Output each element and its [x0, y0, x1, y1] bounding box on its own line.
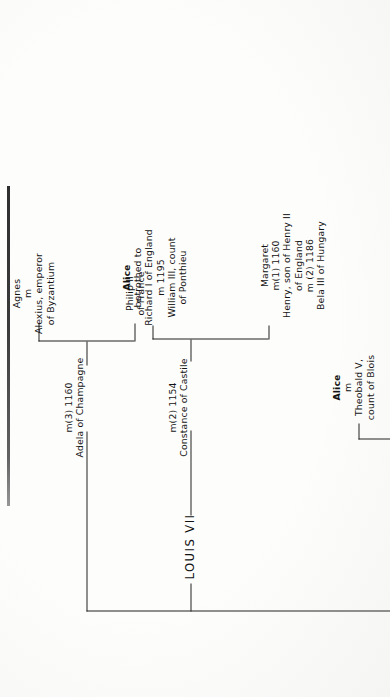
alice-ponthieu-line-4: m 1195 — [154, 229, 165, 326]
alice-ponthieu-line-6: of Ponthieu — [176, 229, 187, 326]
branch-to-marriage-3 — [86, 431, 87, 611]
marriage-3-children-bracket — [38, 340, 134, 341]
agnes-spouse-line-2: of Byzantium — [44, 252, 55, 333]
root-spine-left-stub — [190, 583, 191, 611]
margaret-line-6: Bela III of Hungary — [314, 213, 325, 318]
margaret-line-3: Henry, son of Henry II — [280, 213, 291, 318]
marriage-2-children-bracket — [152, 338, 268, 339]
marriage-3-label: m(3) 1160 Adela of Champagne — [62, 357, 85, 457]
alice-blois-spouse-line-2: count of Blois — [364, 354, 375, 419]
marriage-2-label: m(2) 1154 Constance of Castile — [166, 358, 189, 456]
agnes-spouse-line-1: Alexius, emperor — [32, 252, 43, 333]
alice-ponthieu-line-2: betrothed to — [131, 229, 142, 326]
node-alice-ponthieu: Alice betrothed to Richard I of England … — [120, 229, 187, 326]
alice-ponthieu-name: Alice — [120, 229, 131, 326]
margaret-line-4: of England — [292, 213, 303, 318]
agnes-name: Agnes — [10, 252, 21, 333]
alice-ponthieu-line-5: William III, count — [165, 229, 176, 326]
marriage-1-children-bracket — [358, 438, 390, 439]
alice-blois-spouse-line-1: Theobald V, — [352, 354, 363, 419]
alice-blois-name: Alice — [330, 354, 341, 419]
branch-to-alice-blois — [358, 423, 359, 439]
branch-to-alice-ponthieu — [152, 325, 153, 339]
alice-ponthieu-line-3: Richard I of England — [142, 229, 153, 326]
root-node-label: LOUIS VII — [182, 513, 196, 579]
margaret-name: Margaret — [258, 213, 269, 318]
node-alice-blois: Alice m Theobald V, count of Blois — [330, 354, 375, 419]
margaret-line-2: m(1) 1160 — [269, 213, 280, 318]
marriage-2-connector — [190, 339, 191, 361]
marriages-riser — [86, 610, 390, 611]
margaret-line-5: m (2) 1186 — [303, 213, 314, 318]
marriage-3-spouse: Adela of Champagne — [73, 357, 84, 457]
marriage-3-order: m(3) 1160 — [62, 357, 73, 457]
marriage-3-connector — [86, 341, 87, 365]
branch-to-margaret — [268, 325, 269, 339]
alice-blois-marriage-mark: m — [341, 354, 352, 419]
chart-canvas: LOUIS VII m(3) 1160 Adela of Champagne A… — [0, 0, 390, 697]
marriage-2-order: m(2) 1154 — [166, 358, 177, 456]
marriage-2-spouse: Constance of Castile — [177, 358, 188, 456]
node-agnes: Agnes m Alexius, emperor of Byzantium — [10, 252, 55, 333]
node-margaret: Margaret m(1) 1160 Henry, son of Henry I… — [258, 213, 325, 318]
root-spine-right-run — [190, 430, 191, 515]
genealogy-chart: LOUIS VII m(3) 1160 Adela of Champagne A… — [0, 0, 390, 697]
agnes-marriage-mark: m — [21, 252, 32, 333]
